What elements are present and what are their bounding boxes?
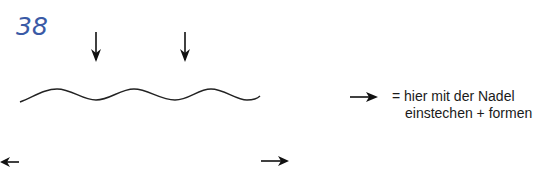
wavy-line — [20, 89, 260, 102]
arrow-left-icon — [0, 157, 19, 167]
arrow-down-icon — [180, 32, 190, 62]
legend: = hier mit der Nadel einstechen + formen — [392, 88, 532, 122]
legend-line-2: einstechen + formen — [392, 105, 532, 122]
arrow-down-icon — [91, 32, 101, 62]
legend-line-1: = hier mit der Nadel — [392, 88, 532, 105]
diagram-canvas: 38 — [0, 0, 548, 189]
arrow-right-icon — [261, 156, 289, 166]
legend-arrow-right-icon — [350, 92, 378, 102]
